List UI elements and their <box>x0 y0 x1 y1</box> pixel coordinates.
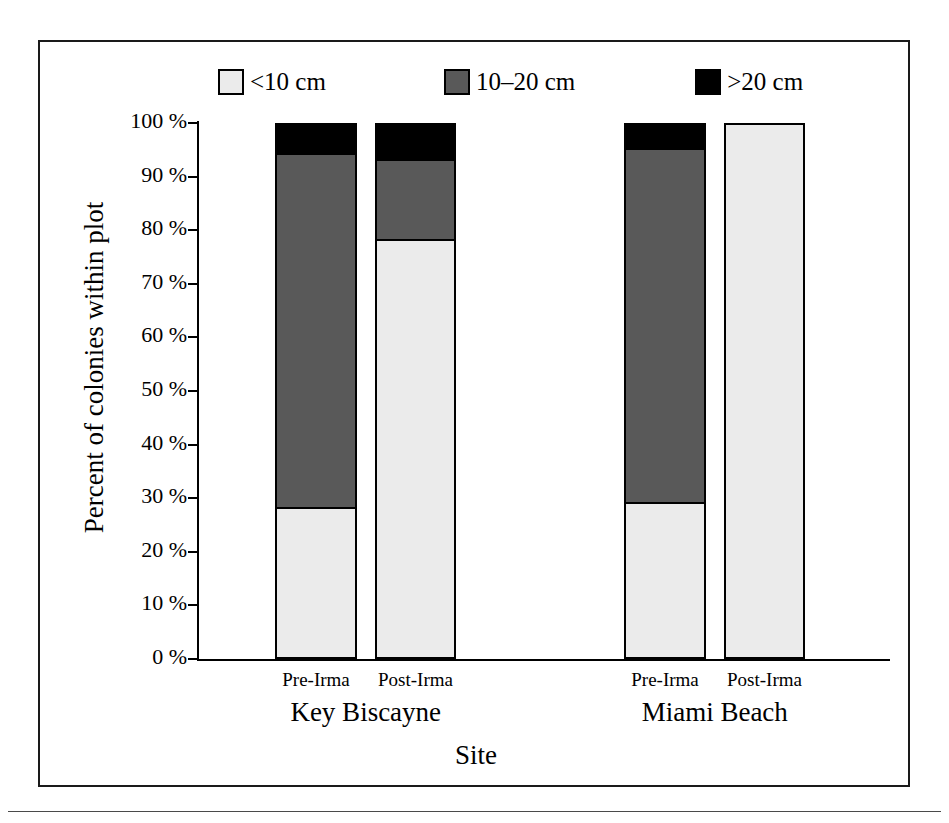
bar-key-biscayne-post-irma-segment-lt10cm <box>375 241 456 659</box>
bar-key-biscayne-pre-irma-segment-lt10cm <box>275 509 357 659</box>
page-divider-rule <box>8 811 941 812</box>
x-axis-tick-label: Post-Irma <box>346 669 486 691</box>
bar-key-biscayne-pre-irma-segment-10to20cm <box>275 155 357 509</box>
bar-miami-beach-pre-irma-segment-10to20cm <box>624 150 706 504</box>
bar-miami-beach-pre-irma[interactable] <box>624 123 706 659</box>
bar-key-biscayne-post-irma-segment-gt20cm <box>375 123 456 161</box>
bar-miami-beach-pre-irma-segment-gt20cm <box>624 123 706 150</box>
x-axis-group-label: Key Biscayne <box>216 697 516 728</box>
x-axis-title: Site <box>40 740 912 771</box>
bar-key-biscayne-post-irma[interactable] <box>375 123 456 659</box>
plot-region: 100 %90 %80 %70 %60 %50 %40 %30 %20 %10 … <box>40 42 912 789</box>
bar-key-biscayne-pre-irma[interactable] <box>275 123 357 659</box>
x-axis-tick-label: Post-Irma <box>695 669 835 691</box>
bar-miami-beach-post-irma[interactable] <box>724 123 805 659</box>
bar-miami-beach-post-irma-segment-lt10cm <box>724 123 805 659</box>
x-axis-group-label: Miami Beach <box>565 697 865 728</box>
bar-key-biscayne-pre-irma-segment-gt20cm <box>275 123 357 155</box>
figure-frame: <10 cm 10–20 cm >20 cm 100 %90 %80 %70 %… <box>38 40 910 787</box>
bar-miami-beach-pre-irma-segment-lt10cm <box>624 504 706 659</box>
bar-key-biscayne-post-irma-segment-10to20cm <box>375 161 456 241</box>
